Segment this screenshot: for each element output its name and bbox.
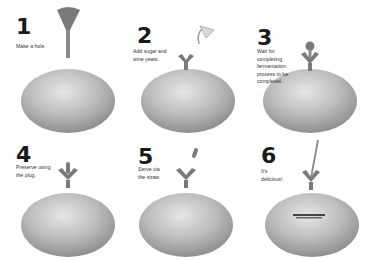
melon-2 xyxy=(141,69,235,133)
step-number-2: 2 xyxy=(137,25,152,47)
melon-6 xyxy=(265,193,359,257)
melon-1 xyxy=(21,69,115,133)
straw-cap-icon xyxy=(176,148,199,188)
step-number-6: 6 xyxy=(261,145,276,167)
step-caption-2: Add sugar and wine yeast. xyxy=(133,48,167,63)
plug-icon xyxy=(58,162,78,188)
funnel-icon xyxy=(178,26,214,70)
step-number-1: 1 xyxy=(16,16,31,38)
step-number-3: 3 xyxy=(257,27,272,49)
straw-icon xyxy=(302,140,320,190)
step-number-4: 4 xyxy=(16,144,31,166)
step-caption-5: Serve via the straw. xyxy=(138,166,160,181)
step-caption-4: Preserve using the plug. xyxy=(16,164,51,179)
step-caption-1: Make a hole. xyxy=(16,43,46,51)
hole-punch-icon xyxy=(57,7,80,58)
illustration-canvas xyxy=(0,0,377,261)
step-caption-6: It's delicious! xyxy=(261,168,283,183)
step-caption-3: Wait for completing fermentation process… xyxy=(257,48,288,86)
melon-5 xyxy=(139,193,233,257)
melon-4 xyxy=(21,193,115,257)
step-number-5: 5 xyxy=(138,146,153,168)
airlock-icon xyxy=(301,42,319,72)
